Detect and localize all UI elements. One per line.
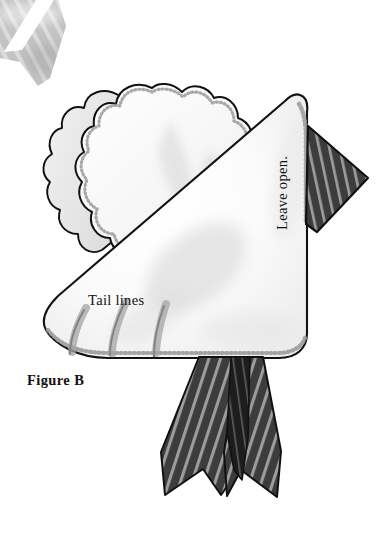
- striped-beak-flap: [306, 126, 368, 232]
- illustration-canvas: [0, 0, 382, 560]
- figure-illustration: Tail lines Figure B Leave open.: [0, 0, 382, 560]
- necktie-tip-top-left: [0, 0, 100, 100]
